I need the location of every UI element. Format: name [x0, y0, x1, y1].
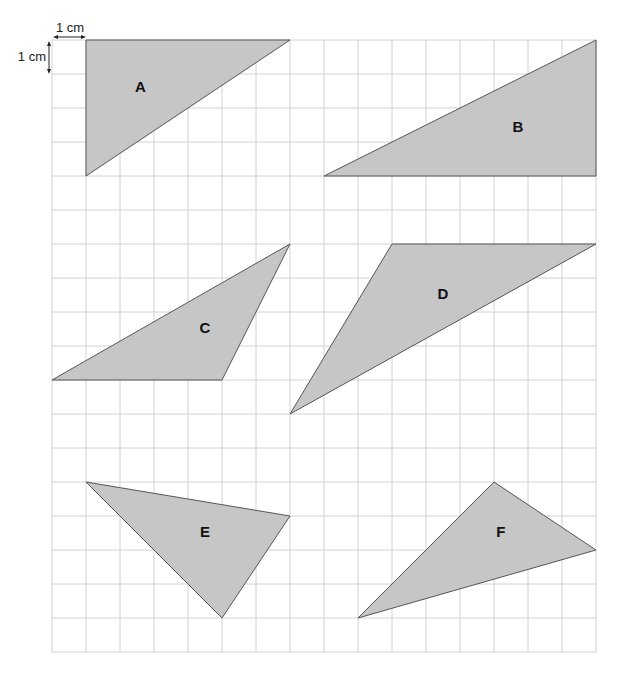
arrowhead-left-icon — [53, 35, 58, 39]
triangle-label: F — [496, 523, 505, 540]
scale-indicator-vertical: 1 cm — [18, 41, 51, 74]
triangle-label: A — [135, 78, 146, 95]
scale-indicator-horizontal: 1 cm — [53, 20, 86, 39]
triangle-d: D — [290, 244, 596, 414]
scale-label-vertical: 1 cm — [18, 49, 46, 64]
scale-label-horizontal: 1 cm — [56, 20, 84, 35]
triangle-shape — [290, 244, 596, 414]
triangle-label: D — [438, 285, 449, 302]
triangle-label: C — [200, 319, 211, 336]
arrowhead-down-icon — [47, 69, 51, 74]
triangle-label: B — [512, 118, 523, 135]
triangle-grid-figure: ABCDEF 1 cm 1 cm — [0, 0, 624, 676]
triangle-label: E — [200, 523, 210, 540]
arrowhead-up-icon — [47, 41, 51, 46]
arrowhead-right-icon — [81, 35, 86, 39]
